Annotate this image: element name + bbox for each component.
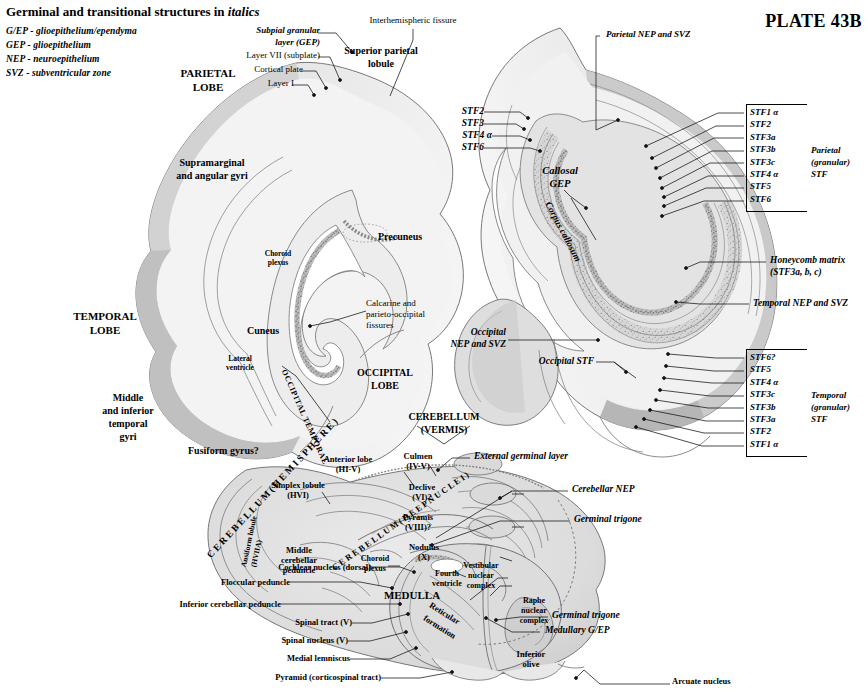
nodulus-label-line2: (X) (418, 553, 430, 562)
legend-item-gep: GEP - glioepithelium (6, 40, 91, 50)
stf6-inner-label: STF6 (462, 142, 484, 152)
germinal-trigone-lower-label: Germinal trigone (552, 610, 620, 620)
cerebellum-vermis-label-line1: CEREBELLUM (408, 412, 479, 423)
superior-parietal-lobule-label-line1: Superior parietal (344, 46, 417, 57)
cochlear-nucleus-label: Cochlear nucleus (dorsal) (278, 563, 371, 572)
legend-title-plain: Germinal and transitional structures in (6, 4, 225, 19)
callosal-gep-label-line2: GEP (550, 178, 571, 189)
external-germinal-layer-label: External germinal layer (474, 451, 568, 461)
medullary-gep-label: Medullary G/EP (545, 625, 610, 635)
stf2-inner-label: STF2 (462, 106, 484, 116)
layer-i-label: Layer I (268, 79, 294, 89)
legend-item-nep: NEP - neuroepithelium (6, 54, 100, 64)
parietal-nep-svz-label: Parietal NEP and SVZ (606, 30, 690, 40)
middle-inferior-temporal-gyri-line2: and inferior (102, 406, 153, 417)
callosal-gep-label-line1: Callosal (542, 165, 578, 176)
superior-parietal-lobule-label-line2: lobule (368, 59, 394, 70)
anterior-lobe-label-line2: (HI-V) (336, 465, 361, 474)
honeycomb-matrix-label-line2: (STF3a, b, c) (770, 267, 822, 277)
anterior-lobe-label-line1: Anterior lobe (324, 455, 373, 464)
medial-lemniscus-label: Medial lemniscus (287, 654, 350, 663)
fourth-ventricle-label-line2: ventricle (432, 580, 462, 589)
spinal-tract-label: Spinal tract (V) (295, 618, 352, 627)
supramarginal-gyri-label-line2: and angular gyri (176, 171, 248, 182)
raphe-nuclear-complex-line2: nuclear (521, 607, 547, 616)
cerebellum-vermis-label-line2: (VERMIS) (421, 425, 468, 436)
parietal-lobe-label-line1: PARIETAL (180, 68, 235, 80)
precuneus-label: Precuneus (378, 232, 422, 243)
temporal-nep-svz-label: Temporal NEP and SVZ (753, 298, 848, 308)
declive-label-line1: Declive (409, 483, 435, 492)
inferior-olive-label-line1: Inferior (517, 650, 546, 659)
temporal-lobe-label-line2: LOBE (90, 325, 121, 337)
plate-number: PLATE 43B (765, 12, 862, 31)
temporal-stf-group-label-line2: (granular) (811, 402, 850, 414)
middle-inferior-temporal-gyri-line1: Middle (113, 393, 144, 404)
spinal-nucleus-label: Spinal nucleus (V) (281, 636, 348, 645)
pyramid-corticospinal-label: Pyramid (corticospinal tract) (275, 673, 381, 682)
legend-item-gep-ependyma: G/EP - glioepithelium/ependyma (6, 26, 137, 36)
temporal-stf-bracket (746, 349, 807, 457)
raphe-nuclear-complex-line3: complex (520, 617, 548, 626)
atlas-plate: Germinal and transitional structures in … (0, 0, 868, 692)
calcarine-fissures-label-line3: fissures (366, 321, 394, 331)
middle-inferior-temporal-gyri-line3: temporal (109, 419, 148, 430)
cuneus-label: Cuneus (247, 326, 279, 337)
choroid-plexus-left-label-line1: Choroid (265, 250, 292, 258)
nodulus-label-line1: Nodulus (409, 543, 439, 552)
vestibular-nuclear-complex-line1: Vestibular (463, 562, 498, 571)
stf4a-inner-label: STF4 α (462, 130, 492, 140)
floccular-peduncle-label: Floccular peduncle (221, 578, 290, 587)
occipital-nep-svz-label-line1: Occipital (471, 327, 506, 337)
occipital-lobe-label-line2: LOBE (371, 381, 399, 392)
legend-item-svz: SVZ - subventricular zone (6, 68, 111, 78)
culmen-label-line2: (IV-V) (406, 462, 429, 471)
stf3-inner-label: STF3 (462, 118, 484, 128)
subpial-granular-layer-label-line1: Subpial granular (256, 26, 320, 36)
parietal-stf-group-label-line1: Parietal (811, 145, 841, 157)
simplex-lobule-label-line2: (HVI) (287, 491, 309, 500)
vestibular-nuclear-complex-line3: complex (467, 582, 495, 591)
parietal-lobe-label-line2: LOBE (193, 82, 224, 94)
calcarine-fissures-label-line2: parieto-occipital (366, 310, 425, 320)
middle-cerebellar-peduncle-line1: Middle (286, 546, 312, 555)
vestibular-nuclear-complex-line2: nuclear (468, 572, 494, 581)
temporal-lobe-label-line1: TEMPORAL (73, 311, 137, 323)
lateral-ventricle-label-line2: ventricle (226, 364, 254, 372)
cerebellar-nep-label: Cerebellar NEP (572, 484, 635, 494)
honeycomb-matrix-label-line1: Honeycomb matrix (770, 255, 845, 265)
occipital-lobe-label-line1: OCCIPITAL (357, 368, 413, 379)
germinal-trigone-upper-label: Germinal trigone (574, 514, 642, 524)
cortical-plate-label: Cortical plate (254, 65, 303, 75)
middle-inferior-temporal-gyri-line4: gyri (119, 432, 136, 443)
legend-title-italic: italics (228, 4, 260, 19)
fourth-ventricle-label-line1: Fourth (435, 570, 459, 579)
supramarginal-gyri-label-line1: Supramarginal (179, 158, 244, 169)
interhemispheric-fissure-label: Interhemispheric fissure (369, 16, 456, 26)
parietal-stf-group-label-line3: STF (811, 169, 828, 181)
layer-vii-label: Layer VII (subplate) (246, 51, 320, 61)
right-hemisphere-section (455, 28, 777, 457)
simplex-lobule-label-line1: Simplex lobule (271, 481, 325, 490)
inferior-olive-label-line2: olive (523, 660, 540, 669)
arcuate-nucleus-label: Arcuate nucleus (672, 677, 731, 686)
culmen-label-line1: Culmen (404, 452, 433, 461)
occipital-nep-svz-label-line2: NEP and SVZ (450, 339, 506, 349)
calcarine-fissures-label-line1: Calcarine and (366, 299, 416, 309)
parietal-stf-bracket (746, 104, 807, 212)
temporal-stf-group-label-line3: STF (811, 414, 828, 426)
subpial-granular-layer-label-line2: layer (GEP) (275, 38, 320, 48)
parietal-stf-group-label-line2: (granular) (811, 157, 850, 169)
fusiform-gyrus-label: Fusiform gyrus? (188, 446, 259, 457)
legend-title: Germinal and transitional structures in … (6, 5, 260, 19)
choroid-plexus-left-label-line2: plexus (268, 259, 288, 267)
raphe-nuclear-complex-line1: Raphe (523, 597, 545, 606)
inferior-cerebellar-peduncle-label: Inferior cerebellar peduncle (179, 600, 281, 609)
lateral-ventricle-label-line1: Lateral (228, 355, 252, 363)
occipital-stf-label: Occipital STF (539, 356, 594, 366)
pyramis-label-line2: (VIII)? (405, 523, 431, 532)
temporal-stf-group-label-line1: Temporal (811, 390, 846, 402)
